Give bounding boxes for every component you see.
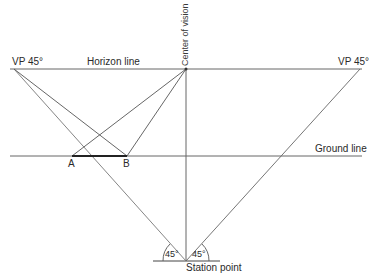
ground-line-label: Ground line (315, 144, 367, 154)
center-of-vision-label: Center of vision (181, 3, 190, 66)
vp-left-to-station-line (14, 69, 186, 261)
point-b-label: B (123, 159, 130, 169)
vp-right-label: VP 45° (338, 57, 369, 67)
angle-left-label: 45° (165, 250, 179, 259)
vp-left-to-b-line (14, 69, 127, 156)
angle-right-label: 45° (192, 250, 206, 259)
vp-left-label: VP 45° (12, 57, 43, 67)
point-a-label: A (68, 159, 75, 169)
station-point-label: Station point (186, 263, 242, 273)
center-of-vision-point (185, 68, 188, 71)
cv-to-b-line (127, 69, 186, 156)
vp-right-to-station-line (186, 69, 360, 261)
cv-to-a-line (72, 69, 186, 156)
horizon-line-label: Horizon line (87, 57, 140, 67)
